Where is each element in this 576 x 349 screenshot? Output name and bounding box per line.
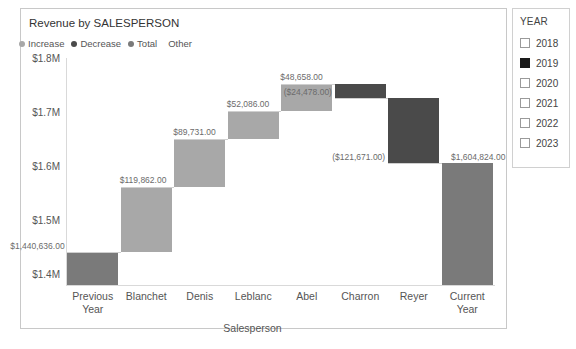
slicer-title: YEAR bbox=[520, 16, 548, 27]
x-axis-line bbox=[66, 285, 495, 286]
legend-item-label: Total bbox=[137, 38, 157, 49]
legend-swatch-icon bbox=[71, 41, 77, 47]
slicer-option-2019[interactable]: 2019 bbox=[520, 53, 568, 73]
slicer-options: 201820192020202120222023 bbox=[520, 33, 568, 153]
x-axis-title: Salesperson bbox=[0, 322, 505, 334]
x-tick-label: Leblanc bbox=[227, 290, 281, 303]
y-tick-label: $1.4M bbox=[32, 269, 60, 280]
slicer-option-2020[interactable]: 2020 bbox=[520, 73, 568, 93]
checkbox-icon[interactable] bbox=[520, 38, 530, 48]
x-tick-label: Previous Year bbox=[66, 290, 120, 315]
x-tick-label: Denis bbox=[173, 290, 227, 303]
y-tick-label: $1.5M bbox=[32, 215, 60, 226]
legend-item-label: Decrease bbox=[80, 38, 121, 49]
slicer-option-2022[interactable]: 2022 bbox=[520, 113, 568, 133]
waterfall-connector bbox=[121, 187, 175, 188]
waterfall-connector bbox=[388, 163, 442, 164]
slicer-option-2023[interactable]: 2023 bbox=[520, 133, 568, 153]
waterfall-chart-report: Revenue by SALESPERSON IncreaseDecreaseT… bbox=[0, 0, 576, 349]
slicer-option-label: 2023 bbox=[536, 138, 558, 149]
checkbox-icon[interactable] bbox=[520, 138, 530, 148]
slicer-option-label: 2019 bbox=[536, 58, 558, 69]
bar-value-label: $89,731.00 bbox=[173, 127, 216, 137]
waterfall-bar[interactable] bbox=[228, 111, 279, 139]
waterfall-bar[interactable] bbox=[174, 139, 225, 187]
legend-item-total[interactable]: Total bbox=[128, 38, 157, 49]
y-axis-ticks: $1.4M$1.5M$1.6M$1.7M$1.8M bbox=[0, 0, 60, 349]
x-tick-label: Current Year bbox=[441, 290, 495, 315]
bar-value-label: $48,658.00 bbox=[280, 72, 323, 82]
waterfall-connector bbox=[228, 111, 282, 112]
checkbox-icon[interactable] bbox=[520, 98, 530, 108]
waterfall-connector bbox=[67, 252, 121, 253]
waterfall-bar[interactable] bbox=[67, 252, 118, 285]
slicer-option-label: 2022 bbox=[536, 118, 558, 129]
legend-swatch-icon bbox=[128, 41, 134, 47]
x-tick-label: Charron bbox=[334, 290, 388, 303]
checkbox-icon[interactable] bbox=[520, 78, 530, 88]
waterfall-connector bbox=[335, 98, 389, 99]
y-tick-label: $1.8M bbox=[32, 53, 60, 64]
waterfall-connector bbox=[281, 84, 335, 85]
bar-value-label: $1,440,636.00 bbox=[10, 241, 64, 251]
bar-value-label: $1,604,824.00 bbox=[451, 152, 505, 162]
bar-value-label: $119,862.00 bbox=[120, 175, 167, 185]
waterfall-bar[interactable] bbox=[335, 84, 386, 97]
waterfall-bar[interactable] bbox=[442, 163, 493, 285]
bar-value-label: $52,086.00 bbox=[227, 99, 270, 109]
checkbox-icon[interactable] bbox=[520, 118, 530, 128]
legend-item-other[interactable]: Other bbox=[168, 38, 192, 49]
waterfall-bar[interactable] bbox=[121, 187, 172, 252]
bar-value-label: ($121,671.00) bbox=[332, 152, 385, 162]
x-tick-label: Abel bbox=[280, 290, 334, 303]
slicer-option-label: 2018 bbox=[536, 38, 558, 49]
slicer-option-label: 2020 bbox=[536, 78, 558, 89]
waterfall-connector bbox=[174, 139, 228, 140]
y-tick-label: $1.6M bbox=[32, 161, 60, 172]
slicer-option-2021[interactable]: 2021 bbox=[520, 93, 568, 113]
waterfall-bar[interactable] bbox=[388, 98, 439, 164]
x-tick-label: Reyer bbox=[387, 290, 441, 303]
legend-item-label: Other bbox=[168, 38, 192, 49]
legend-item-decrease[interactable]: Decrease bbox=[71, 38, 121, 49]
slicer-option-2018[interactable]: 2018 bbox=[520, 33, 568, 53]
bar-value-label: ($24,478.00) bbox=[284, 87, 332, 97]
x-tick-label: Blanchet bbox=[120, 290, 174, 303]
year-slicer[interactable]: YEAR 201820192020202120222023 bbox=[512, 8, 570, 168]
checkbox-checked-icon[interactable] bbox=[520, 58, 530, 68]
y-tick-label: $1.7M bbox=[32, 107, 60, 118]
slicer-option-label: 2021 bbox=[536, 98, 558, 109]
